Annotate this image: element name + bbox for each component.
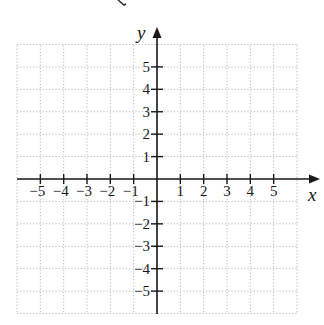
y-tick-label: −5 (134, 283, 150, 299)
x-axis-arrow-icon (309, 175, 320, 184)
y-tick-label: −2 (134, 216, 150, 232)
x-axis-label: x (307, 184, 317, 205)
y-tick-label: 3 (143, 104, 151, 120)
axes (17, 27, 320, 314)
y-tick-label: −4 (134, 261, 150, 277)
coordinate-plane: −5−4−3−2−11234554321−1−2−3−4−5 x y (0, 0, 324, 325)
x-tick-label: −3 (76, 183, 92, 199)
y-axis-arrow-icon (153, 27, 162, 38)
y-tick-label: −3 (134, 238, 150, 254)
y-tick-label: 5 (143, 59, 151, 75)
y-tick-label: 4 (143, 81, 151, 97)
x-tick-label: 5 (270, 183, 278, 199)
x-tick-label: −2 (99, 183, 115, 199)
y-axis-label: y (135, 22, 146, 43)
cropped-text-fragment (118, 0, 126, 5)
y-tick-label: 2 (143, 126, 151, 142)
x-tick-label: −4 (53, 183, 69, 199)
x-tick-label: 3 (223, 183, 231, 199)
x-tick-label: 2 (200, 183, 208, 199)
x-tick-label: 1 (177, 183, 185, 199)
y-tick-label: −1 (134, 193, 150, 209)
x-tick-label: −5 (29, 183, 45, 199)
x-tick-label: 4 (247, 183, 255, 199)
y-tick-label: 1 (143, 149, 151, 165)
